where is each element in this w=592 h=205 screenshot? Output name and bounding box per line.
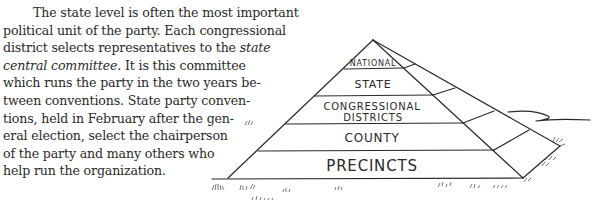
horizon-line [508, 111, 590, 121]
level-divider [315, 95, 433, 96]
side-divider [433, 88, 455, 95]
level-label-state: STATE [354, 78, 391, 91]
level-label-precincts: PRECINCTS [326, 157, 417, 175]
level-label-congressional: CONGRESSIONAL [323, 101, 420, 112]
pyramid-side-base [523, 146, 560, 178]
party-pyramid-diagram: NATIONAL STATE CONGRESSIONAL DISTRICTS C… [0, 0, 592, 205]
pyramid-base-line [212, 178, 523, 179]
level-divider [344, 68, 404, 69]
pyramid-back-edge [373, 40, 560, 146]
level-divider [286, 123, 463, 124]
level-label-national: NATIONAL [350, 59, 397, 68]
level-divider [258, 150, 494, 151]
side-divider [463, 111, 494, 123]
side-divider [494, 130, 529, 150]
side-divider [404, 64, 415, 68]
level-label-districts: DISTRICTS [343, 112, 403, 123]
level-label-county: COUNTY [344, 131, 399, 145]
